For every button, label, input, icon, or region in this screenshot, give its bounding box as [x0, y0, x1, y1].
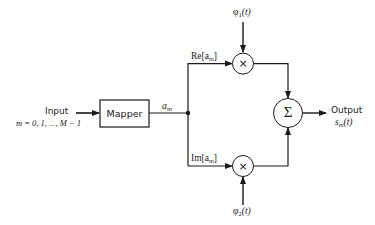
- input-label: Input: [45, 107, 68, 116]
- re-prefix: Re[a: [191, 51, 209, 61]
- im-suffix: ]: [214, 153, 217, 163]
- upper-to-summer-line: [254, 64, 289, 98]
- re-suffix: ]: [214, 51, 217, 61]
- output-signal-label: sm(t): [335, 118, 352, 128]
- sm-suffix: (t): [344, 117, 353, 127]
- lower-multiply-symbol: ×: [233, 160, 253, 173]
- lower-to-summer-line: [254, 128, 289, 166]
- output-label: Output: [331, 106, 362, 115]
- mapper-output-label: am: [162, 101, 172, 113]
- phi2-suffix: (t): [242, 206, 251, 216]
- modulator-block-diagram: Input m = 0, 1, ..., M − 1 Mapper am Re[…: [0, 0, 375, 225]
- phi2-label: φ2(t): [233, 207, 251, 217]
- upper-multiply-symbol: ×: [233, 57, 253, 70]
- mapper-label: Mapper: [100, 108, 149, 119]
- input-range-label: m = 0, 1, ..., M − 1: [16, 119, 81, 128]
- phi1-suffix: (t): [242, 7, 251, 17]
- summation-symbol: Σ: [276, 104, 300, 121]
- phi1-label: φ1(t): [233, 8, 251, 18]
- real-part-label: Re[am]: [191, 52, 217, 62]
- im-prefix: Im[a: [191, 153, 209, 163]
- am-subscript: m: [167, 105, 172, 113]
- input-range-text: m = 0, 1, ..., M − 1: [16, 118, 81, 128]
- imag-part-label: Im[am]: [191, 154, 217, 164]
